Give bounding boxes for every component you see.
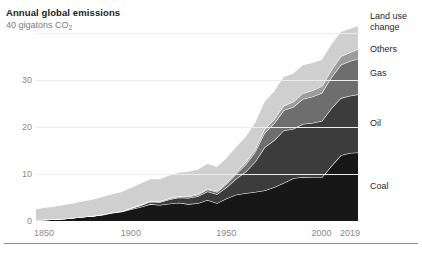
gridline-0: [36, 221, 358, 222]
legend-label-land-use-change: Land usechange: [370, 11, 407, 33]
y-tick-label-20: 20: [6, 123, 32, 132]
legend-label-line1: Land use: [370, 11, 407, 21]
y-tick-label-0: 0: [6, 217, 32, 226]
gridline-30: [36, 80, 358, 81]
y-tick-label-10: 10: [6, 170, 32, 179]
x-tick-label-1900: 1900: [121, 229, 141, 238]
legend-label-coal: Coal: [370, 181, 389, 192]
legend-label-gas: Gas: [370, 68, 387, 79]
y-tick-label-30: 30: [6, 76, 32, 85]
x-tick-label-1850: 1850: [34, 229, 54, 238]
x-tick-label-2019: 2019: [340, 229, 360, 238]
legend-label-others: Others: [370, 44, 397, 55]
gridline-10: [36, 174, 358, 175]
x-tick-label-2000: 2000: [311, 229, 331, 238]
bottom-divider: [4, 243, 418, 244]
gridline-40: [84, 33, 358, 34]
x-tick-label-1950: 1950: [216, 229, 236, 238]
chart-figure: Annual global emissions 40 gigatons CO2 …: [0, 0, 422, 253]
legend-label-oil: Oil: [370, 118, 381, 129]
gridline-20: [36, 127, 358, 128]
legend-label-line2: change: [370, 22, 400, 32]
